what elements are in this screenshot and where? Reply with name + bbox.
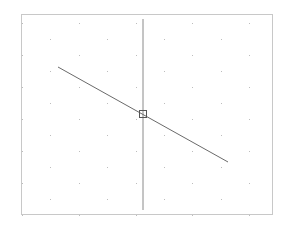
grid-dot [136,183,137,184]
grid-dot [79,55,80,56]
grid-dot [79,151,80,152]
grid-dot [221,167,222,168]
grid-dot [136,215,137,216]
grid-dot [249,87,250,88]
grid-dot [22,151,23,152]
grid-dot [79,183,80,184]
grid-dot [22,55,23,56]
grid-dot [136,23,137,24]
grid-dot [164,71,165,72]
drawing-canvas[interactable] [0,0,287,230]
grid-dot [50,71,51,72]
grid-dot [79,215,80,216]
grid-dot [192,151,193,152]
grid-dot [107,167,108,168]
grid-dot [22,119,23,120]
grid-dot [249,183,250,184]
grid-dot [192,87,193,88]
grid-dot [164,135,165,136]
grid-dot [50,167,51,168]
grid-dot [50,199,51,200]
grid-dot [107,199,108,200]
grid-dot [79,87,80,88]
grid-dot [50,103,51,104]
grid-dot [107,39,108,40]
grid-dot [136,119,137,120]
grid-dot [249,23,250,24]
grid-dot [22,215,23,216]
drawing-area[interactable] [0,0,287,230]
grid-dot [136,55,137,56]
grid-dot [50,135,51,136]
grid-dot [221,39,222,40]
grid-dot [249,215,250,216]
grid-dot [221,103,222,104]
grid-dot [22,87,23,88]
grid-dot [164,167,165,168]
grid-dot [164,199,165,200]
grid-dot [107,71,108,72]
grid-dot [192,183,193,184]
grid-dot [79,23,80,24]
grid-dot [164,103,165,104]
grid-dot [249,55,250,56]
grid-dot [221,199,222,200]
grid-dot [192,215,193,216]
grid-dot [164,39,165,40]
grid-dot [50,39,51,40]
grid-dot [107,103,108,104]
grid-dot [221,71,222,72]
grid-dot [22,183,23,184]
grid-dot [192,55,193,56]
grid-dot [22,23,23,24]
grid-dot [136,87,137,88]
grid-dot [79,119,80,120]
grid-dot [192,119,193,120]
grid-dot [249,119,250,120]
grid-dot [249,151,250,152]
grid-dot [221,135,222,136]
grid-dot [136,151,137,152]
grid-dot [192,23,193,24]
grid-dot [107,135,108,136]
